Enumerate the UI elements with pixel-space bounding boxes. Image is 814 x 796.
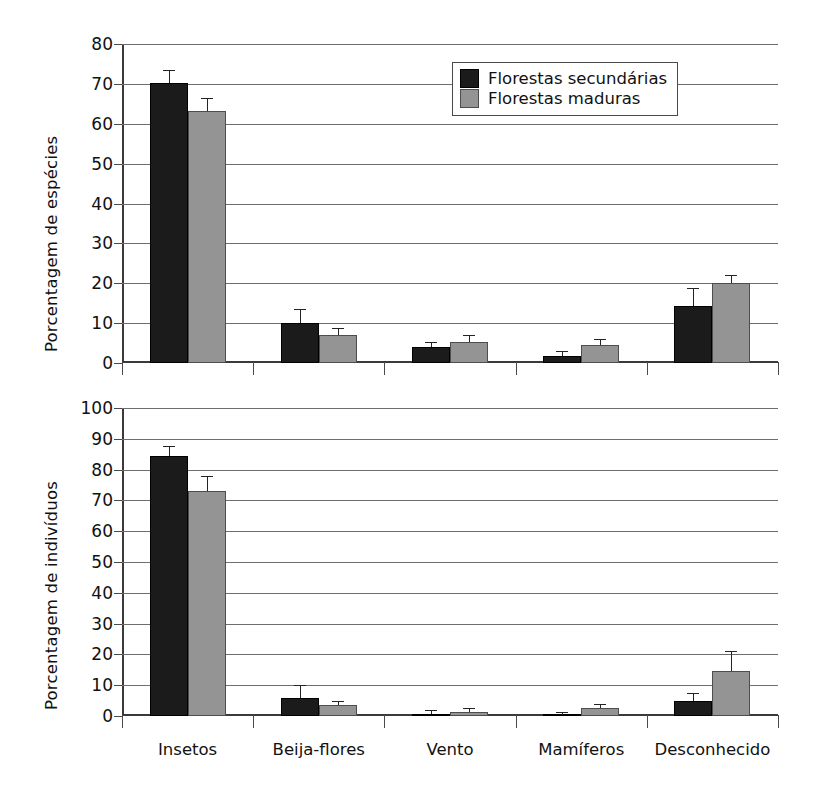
chart-percentage-of-individuals: Porcentagem de indivíduos 01020304050607…: [0, 398, 814, 796]
bar-desconhecido-series-1: [712, 283, 750, 363]
y-tick-mark: [114, 593, 122, 594]
error-bar-cap: [332, 701, 344, 702]
y-tick-label: 10: [91, 313, 113, 333]
bar-vento-series-0: [412, 347, 450, 363]
error-bar-cap: [463, 335, 475, 336]
y-tick-mark: [114, 243, 122, 244]
error-bar-cap: [687, 288, 699, 289]
bar-beija-flores-series-0: [281, 323, 319, 363]
x-axis-group-separator: [122, 715, 123, 728]
x-axis-group-separator: [516, 715, 517, 728]
error-bar-stem: [731, 275, 732, 283]
bar-beija-flores-series-0: [281, 698, 319, 716]
y-tick-label: 50: [91, 154, 113, 174]
error-bar-stem: [169, 446, 170, 456]
error-bar-cap: [556, 351, 568, 352]
y-tick-mark: [114, 500, 122, 501]
bar-vento-series-1: [450, 342, 488, 363]
bar-insetos-series-1: [188, 111, 226, 363]
x-axis-group-separator: [384, 715, 385, 728]
error-bar-stem: [469, 335, 470, 342]
error-bar-cap: [594, 339, 606, 340]
x-tick-label-mam-feros: Mamíferos: [538, 740, 624, 759]
y-tick-label: 70: [91, 74, 113, 94]
legend-swatch-dark-icon: [460, 69, 479, 88]
error-bar-cap: [201, 476, 213, 477]
x-axis-group-separator: [647, 362, 648, 375]
error-bar-cap: [425, 342, 437, 343]
figure-root: Porcentagem de espécies 0102030405060708…: [0, 0, 814, 796]
y-tick-mark: [114, 531, 122, 532]
y-tick-mark: [114, 716, 122, 717]
x-axis-group-separator: [122, 362, 123, 375]
y-tick-mark: [114, 84, 122, 85]
legend-label-1: Florestas maduras: [488, 89, 640, 108]
bar-beija-flores-series-1: [319, 705, 357, 716]
grid-line: [122, 408, 778, 409]
y-tick-mark: [114, 323, 122, 324]
x-tick-label-desconhecido: Desconhecido: [654, 740, 770, 759]
x-axis-group-separator: [778, 362, 779, 375]
y-tick-label: 20: [91, 273, 113, 293]
y-tick-label: 90: [91, 429, 113, 449]
error-bar-stem: [693, 693, 694, 701]
bar-desconhecido-series-0: [674, 306, 712, 363]
y-tick-mark: [114, 624, 122, 625]
bar-desconhecido-series-1: [712, 671, 750, 716]
grid-line: [122, 439, 778, 440]
y-tick-label: 50: [91, 552, 113, 572]
error-bar-cap: [294, 309, 306, 310]
y-tick-label: 60: [91, 114, 113, 134]
bar-insetos-series-1: [188, 491, 226, 716]
error-bar-cap: [687, 693, 699, 694]
x-tick-label-insetos: Insetos: [158, 740, 217, 759]
y-tick-mark: [114, 44, 122, 45]
bar-vento-series-1: [450, 712, 488, 716]
y-tick-mark: [114, 283, 122, 284]
error-bar-stem: [169, 70, 170, 83]
error-bar-stem: [300, 685, 301, 698]
error-bar-cap: [725, 651, 737, 652]
error-bar-cap: [594, 704, 606, 705]
error-bar-cap: [725, 275, 737, 276]
chart-legend: Florestas secundárias Florestas maduras: [452, 62, 678, 116]
error-bar-cap: [201, 98, 213, 99]
x-axis-group-separator: [778, 715, 779, 728]
plot-area-top: 01020304050607080: [122, 44, 778, 363]
plot-area-bottom: 0102030405060708090100InsetosBeija-flore…: [122, 408, 778, 716]
bar-mam-feros-series-1: [581, 345, 619, 363]
x-axis-group-separator: [253, 362, 254, 375]
y-axis-label-top: Porcentagem de espécies: [42, 136, 61, 352]
y-tick-label: 40: [91, 583, 113, 603]
y-tick-mark: [114, 654, 122, 655]
y-tick-label: 60: [91, 521, 113, 541]
y-tick-label: 70: [91, 490, 113, 510]
y-tick-mark: [114, 204, 122, 205]
y-tick-label: 30: [91, 233, 113, 253]
error-bar-cap: [294, 685, 306, 686]
x-axis-group-separator: [253, 715, 254, 728]
x-tick-label-vento: Vento: [426, 740, 473, 759]
chart-percentage-of-species: Porcentagem de espécies 0102030405060708…: [0, 0, 814, 400]
y-tick-mark: [114, 562, 122, 563]
y-tick-mark: [114, 439, 122, 440]
x-tick-label-beija-flores: Beija-flores: [273, 740, 365, 759]
legend-label-0: Florestas secundárias: [488, 69, 667, 88]
y-tick-mark: [114, 470, 122, 471]
y-tick-label: 40: [91, 194, 113, 214]
y-tick-label: 80: [91, 34, 113, 54]
legend-item-florestas-maduras: Florestas maduras: [460, 89, 667, 108]
x-axis-group-separator: [384, 362, 385, 375]
bar-mam-feros-series-0: [543, 356, 581, 363]
y-tick-label: 0: [102, 353, 113, 373]
y-axis-label-bottom: Porcentagem de indivíduos: [42, 481, 61, 710]
legend-swatch-light-icon: [460, 89, 479, 108]
y-tick-mark: [114, 124, 122, 125]
y-tick-label: 10: [91, 675, 113, 695]
bar-desconhecido-series-0: [674, 701, 712, 716]
error-bar-stem: [731, 651, 732, 671]
y-tick-mark: [114, 408, 122, 409]
error-bar-cap: [163, 446, 175, 447]
y-tick-mark: [114, 685, 122, 686]
error-bar-stem: [338, 328, 339, 336]
